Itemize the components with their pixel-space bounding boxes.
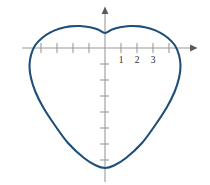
y-axis-arrowhead <box>102 7 109 15</box>
heart-curve-plot: 1 2 3 <box>0 0 210 185</box>
x-tick-label-1: 1 <box>119 55 124 65</box>
x-tick-label-3: 3 <box>151 55 156 65</box>
x-axis-arrowhead <box>190 45 198 52</box>
x-tick-label-2: 2 <box>135 55 140 65</box>
figure-container: 1 2 3 <box>0 0 210 185</box>
